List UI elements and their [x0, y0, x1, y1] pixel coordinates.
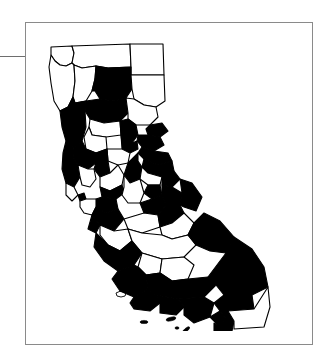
county-inyo — [188, 213, 234, 253]
county-shasta — [92, 66, 132, 101]
california-county-map — [38, 41, 288, 331]
county-napa — [78, 165, 96, 187]
county-riverside — [214, 295, 254, 311]
island-santa-cruz — [166, 316, 177, 322]
county-yolo — [94, 149, 110, 177]
county-mono — [180, 179, 202, 211]
coastal-inlet-mark — [116, 291, 126, 297]
island-santa-rosa — [140, 320, 148, 323]
county-sutter — [107, 149, 130, 165]
island-san-clemente — [175, 327, 179, 329]
horizontal-rule — [0, 56, 26, 57]
county-marin — [66, 183, 78, 201]
county-siskiyou — [72, 44, 131, 68]
figure-root — [0, 0, 327, 354]
island-santa-catalina — [182, 326, 191, 331]
map-area — [26, 23, 312, 344]
county-trinity — [73, 65, 96, 103]
county-modoc — [130, 44, 164, 75]
figure-frame — [25, 22, 313, 345]
county-los-angeles — [178, 297, 214, 323]
